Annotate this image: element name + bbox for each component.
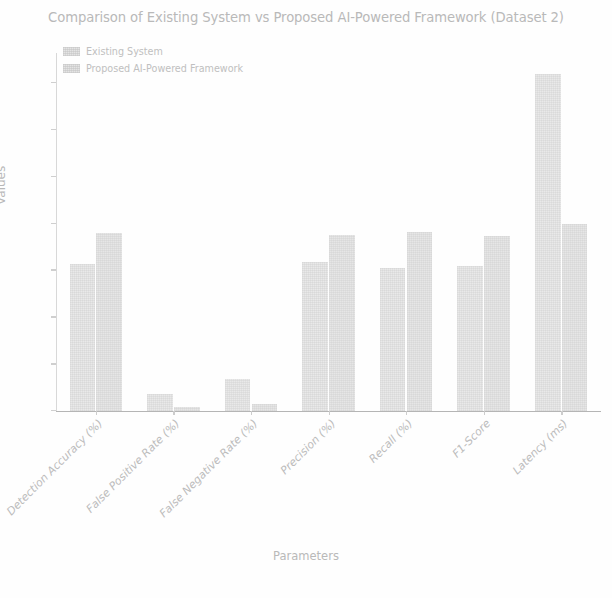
bar	[535, 74, 561, 411]
chart-title: Comparison of Existing System vs Propose…	[0, 10, 612, 25]
x-tick-mark	[561, 411, 562, 415]
y-tick-mark	[51, 363, 56, 364]
x-tick-mark	[173, 411, 174, 415]
bar	[457, 266, 483, 411]
chart-legend: Existing System Proposed AI-Powered Fram…	[63, 44, 293, 78]
bar	[252, 404, 278, 411]
legend-item-label: Existing System	[86, 46, 163, 57]
y-tick-mark	[51, 269, 56, 270]
bar	[70, 264, 96, 411]
x-tick-mark	[251, 411, 252, 415]
x-tick-mark	[329, 411, 330, 415]
bar	[174, 407, 200, 411]
y-tick-mark	[51, 316, 56, 317]
x-tick-mark	[484, 411, 485, 415]
x-tick-mark	[96, 411, 97, 415]
bar	[380, 268, 406, 411]
plot-area	[57, 55, 600, 411]
legend-swatch-icon	[63, 64, 80, 73]
bar	[329, 235, 355, 411]
y-tick-mark	[51, 82, 56, 83]
y-tick-mark	[51, 410, 56, 411]
y-axis-label: Values	[0, 166, 8, 205]
bar	[96, 233, 122, 411]
bar-chart-figure: Comparison of Existing System vs Propose…	[0, 0, 612, 598]
legend-item-existing-system: Existing System	[63, 44, 293, 59]
legend-swatch-icon	[63, 47, 80, 56]
legend-item-proposed-framework: Proposed AI-Powered Framework	[63, 61, 293, 76]
x-axis-label: Parameters	[0, 549, 612, 563]
bar	[562, 224, 588, 411]
y-tick-mark	[51, 129, 56, 130]
bar	[484, 236, 510, 411]
bar	[147, 394, 173, 411]
legend-item-label: Proposed AI-Powered Framework	[86, 63, 243, 74]
bar	[407, 232, 433, 411]
bar	[225, 379, 251, 411]
y-tick-mark	[51, 176, 56, 177]
x-tick-mark	[406, 411, 407, 415]
y-tick-mark	[51, 223, 56, 224]
bar	[302, 262, 328, 411]
